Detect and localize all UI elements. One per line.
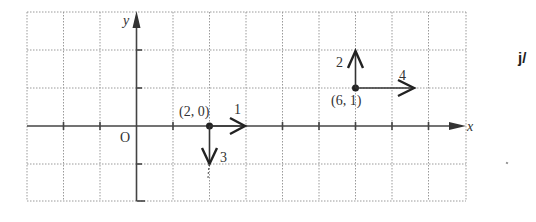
y-axis bbox=[137, 22, 146, 201]
point-2-0-label: (2, 0) bbox=[179, 104, 210, 120]
y-axis-label: y bbox=[121, 13, 130, 28]
point-6-1-label: (6, 1) bbox=[331, 93, 362, 109]
vector-down-3-label: 3 bbox=[220, 150, 227, 165]
side-text-fragment: j/ bbox=[518, 49, 526, 66]
x-axis-arrowhead-icon bbox=[449, 122, 466, 130]
y-axis-arrowhead-icon bbox=[133, 11, 141, 28]
vector-right-4-label: 4 bbox=[399, 68, 406, 83]
origin-label: O bbox=[120, 130, 130, 145]
grid bbox=[27, 12, 466, 201]
vector-up-2-label: 2 bbox=[336, 55, 343, 70]
x-axis-label: x bbox=[466, 119, 474, 134]
vector-right-1-label: 1 bbox=[234, 102, 241, 117]
vector-down-3-tail bbox=[208, 164, 209, 178]
coordinate-grid-diagram: x y O (2, 0) 1 3 (6, 1) 2 4 bbox=[0, 0, 536, 222]
